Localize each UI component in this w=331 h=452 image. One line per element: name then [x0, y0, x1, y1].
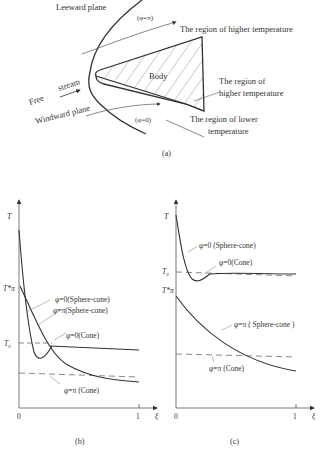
label-windward: Windward plane — [34, 103, 91, 126]
tick-c-0: 0 — [174, 412, 178, 421]
tick-b-0: 0 — [17, 412, 21, 421]
label-phi-pi: (φ=π) — [137, 14, 154, 22]
y-label-b: T — [7, 212, 12, 221]
label-b-phi0-cone: φ=0(Cone) — [66, 331, 100, 340]
mark-t0-b: T₀ — [4, 339, 11, 348]
panel-b: T T*π T₀ φ=0(Sphere-cone) φ=π(Sphere-con… — [3, 200, 159, 446]
label-b-phipi-sc: φ=π(Sphere-cone) — [53, 306, 108, 315]
label-b-phi0-sc: φ=0(Sphere-cone) — [55, 295, 110, 304]
caption-c: (c) — [230, 437, 239, 446]
mark-t0-c: T₀ — [162, 267, 169, 276]
panel-a: Leeward plane (φ=π) The region of higher… — [28, 0, 294, 158]
label-free: Free — [28, 93, 46, 107]
label-c-phipi-cone: φ=π (Cone) — [209, 364, 245, 373]
label-c-phi0-cone: φ=0(Cone) — [219, 258, 253, 267]
label-leeward: Leeward plane — [56, 2, 106, 12]
curve-phi0-cone — [50, 346, 139, 350]
y-label-c: T — [164, 212, 169, 221]
streamline-bottom — [86, 104, 160, 116]
caption-a: (a) — [162, 149, 171, 158]
label-c-phipi-sc: φ=π ( Sphere-cone ) — [234, 320, 295, 329]
streamline-top — [82, 22, 176, 54]
label-higher-right-2: higher temperature — [219, 88, 284, 98]
tick-c-1: 1 — [293, 412, 297, 421]
label-phi-0: (φ=0) — [135, 116, 152, 124]
curve-phipi-sphere-cone — [176, 296, 296, 371]
mark-t-pi-star-b: T*π — [3, 284, 15, 293]
label-c-phi0-sc: φ=0 (Sphere-cone) — [199, 241, 256, 250]
x-label-b: ξ — [155, 412, 159, 421]
label-higher-right-1: The region of — [219, 76, 265, 86]
tick-b-1: 1 — [136, 412, 140, 421]
x-label-c: ξ — [312, 412, 316, 421]
mark-t-pi-star-c: T*π — [162, 286, 174, 295]
label-higher-top: The region of higher temperature — [180, 24, 293, 34]
label-body: Body — [149, 71, 168, 81]
curve-phipi-cone — [19, 373, 139, 377]
caption-b: (b) — [75, 437, 85, 446]
panel-c: T T₀ T*π φ=0 (Sphere-cone) φ=0(Cone) φ=π… — [162, 200, 316, 446]
label-b-phipi-cone: φ=π (Cone) — [64, 386, 100, 395]
label-lower-1: The region of lower — [190, 114, 258, 124]
figure: Leeward plane (φ=π) The region of higher… — [0, 0, 331, 452]
curve-phipi-cone — [176, 354, 296, 357]
label-lower-2: temperature — [208, 126, 249, 136]
